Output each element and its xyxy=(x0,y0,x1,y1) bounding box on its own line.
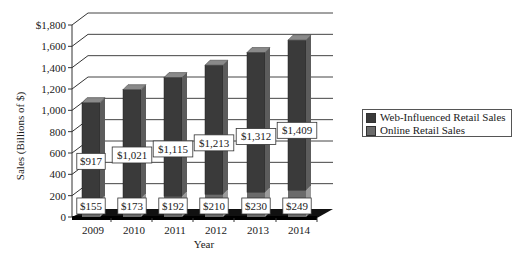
data-label: $173 xyxy=(121,200,144,212)
y-tick-label: 1,600 xyxy=(41,40,66,52)
legend-label: Web-Influenced Retail Sales xyxy=(380,111,506,124)
legend-label: Online Retail Sales xyxy=(380,124,465,137)
bars xyxy=(82,35,311,217)
legend: Web-Influenced Retail Sales Online Retai… xyxy=(362,109,512,137)
y-tick-label: 200 xyxy=(50,190,67,202)
data-label: $1,021 xyxy=(117,149,147,161)
y-tick-label: 1,400 xyxy=(41,62,66,74)
x-tick-label: 2010 xyxy=(123,224,146,236)
data-label: $1,312 xyxy=(241,130,271,142)
legend-swatch-web xyxy=(366,113,376,123)
data-label: $1,213 xyxy=(199,137,230,149)
y-tick-label: 0 xyxy=(61,211,67,223)
y-tick-label: 1,200 xyxy=(41,83,66,95)
data-labels: $155$917$173$1,021$192$1,115$210$1,213$2… xyxy=(77,122,317,214)
x-tick-label: 2009 xyxy=(82,224,105,236)
y-axis-title: Sales (Billions of $) xyxy=(14,92,27,181)
legend-swatch-online xyxy=(366,126,376,136)
y-tick-label: 400 xyxy=(50,168,67,180)
x-axis-title: Year xyxy=(194,238,215,250)
data-label: $1,115 xyxy=(158,143,188,155)
legend-item-online: Online Retail Sales xyxy=(366,124,508,137)
y-tick-label: $1,800 xyxy=(36,19,67,31)
x-tick-label: 2013 xyxy=(247,224,270,236)
y-tick-label: 600 xyxy=(50,147,67,159)
x-tick-label: 2014 xyxy=(288,224,311,236)
data-label: $917 xyxy=(80,155,103,167)
legend-item-web-influenced: Web-Influenced Retail Sales xyxy=(366,111,508,124)
y-tick-label: 1,000 xyxy=(41,104,66,116)
data-label: $192 xyxy=(162,200,184,212)
data-label: $249 xyxy=(286,200,309,212)
x-tick-label: 2012 xyxy=(205,224,227,236)
data-label: $155 xyxy=(80,200,103,212)
data-label: $230 xyxy=(245,200,268,212)
x-tick-label: 2011 xyxy=(164,224,186,236)
y-tick-label: 800 xyxy=(50,126,67,138)
data-label: $1,409 xyxy=(282,124,313,136)
data-label: $210 xyxy=(203,200,226,212)
